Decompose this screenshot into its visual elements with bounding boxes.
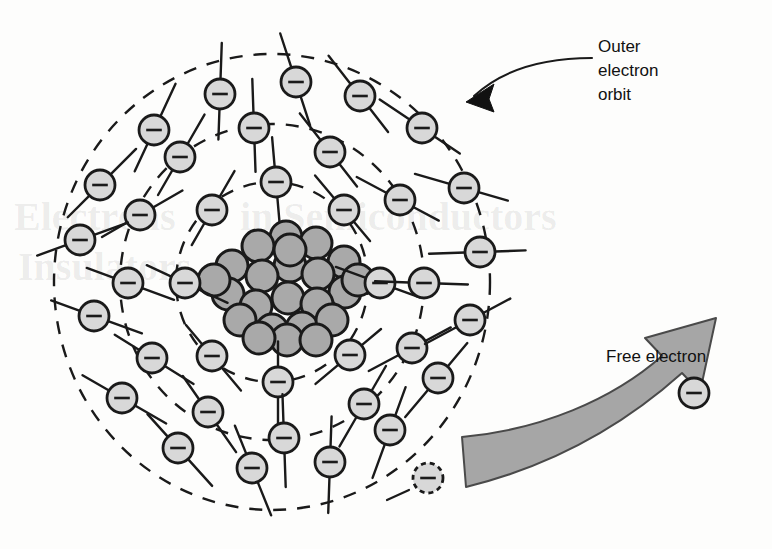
- electron-tail-10: [188, 115, 205, 144]
- electron-tail-b-17: [282, 394, 283, 423]
- electron-12: [300, 113, 357, 186]
- diagram-canvas: Electronsin SemiconductorsInsulators: [0, 0, 772, 549]
- outer-orbit-leader-line: [466, 58, 592, 112]
- arrow-body: [462, 318, 716, 487]
- electron-tail-b-11: [255, 143, 256, 172]
- escaping-electron-tail: [387, 490, 409, 500]
- electron-tail-b-5: [361, 329, 381, 345]
- electron-30: [425, 299, 510, 344]
- electron-tail-27: [380, 99, 410, 119]
- electron-tail-b-19: [115, 335, 140, 350]
- electron-tail-14: [375, 281, 409, 282]
- electron-tail-36: [135, 406, 166, 424]
- electron-tail-22: [111, 149, 136, 174]
- electron-tail-31: [405, 389, 428, 417]
- outer-orbit-label-line-3: orbit: [598, 85, 631, 104]
- electron-17: [269, 394, 299, 487]
- electron-tail-33: [328, 477, 329, 513]
- nucleon-21: [243, 322, 275, 354]
- electron-tail-b-26: [369, 108, 388, 132]
- electron-27: [380, 99, 460, 153]
- electron-tail-5: [316, 365, 339, 384]
- electron-19: [115, 335, 194, 384]
- nucleon-11: [272, 282, 304, 314]
- electron-tail-2: [272, 137, 275, 167]
- electron-11: [239, 79, 269, 172]
- electron-tail-21: [108, 321, 142, 333]
- electron-tail-12: [300, 113, 321, 140]
- electron-tail-7: [222, 367, 241, 390]
- electron-tail-25: [280, 33, 291, 67]
- electron-tail-13: [357, 177, 387, 193]
- electron-tail-29: [429, 253, 465, 254]
- atom-diagram-svg: Electronsin SemiconductorsInsulators: [0, 0, 772, 549]
- electron-26: [329, 56, 388, 132]
- electron-25: [280, 33, 311, 125]
- electron-tail-19: [165, 366, 194, 384]
- electron-tail-b-24: [218, 109, 219, 140]
- outer-orbit-label-line-2: electron: [598, 61, 658, 80]
- outer-orbit-label-line-1: Outer: [598, 37, 641, 56]
- electron-tail-b-14: [439, 284, 468, 285]
- electron-tail-8: [142, 288, 174, 300]
- diagram-labels: Outer electron orbit Free electron: [598, 37, 706, 366]
- nucleon-22: [300, 324, 332, 356]
- electron-tail-b-15: [425, 327, 451, 341]
- electron-tail-30: [425, 327, 457, 344]
- electron-tail-b-23: [135, 144, 148, 172]
- free-electron-arrow: [462, 318, 716, 487]
- electron-tail-23: [160, 84, 175, 117]
- electron-tail-11: [252, 79, 253, 113]
- electron-tail-18: [217, 424, 237, 452]
- electron-tail-b-34: [235, 426, 246, 454]
- leader-arrowhead-icon: [466, 84, 494, 112]
- electron-tail-b-32: [395, 387, 405, 416]
- electron-tail-b-31: [448, 343, 468, 366]
- electron-29: [429, 237, 526, 267]
- electron-tail-28: [415, 174, 450, 184]
- electron-tail-b-33: [331, 416, 332, 447]
- electron-tail-b-12: [339, 164, 357, 187]
- nucleus: [198, 221, 374, 356]
- electron-tail-17: [285, 453, 286, 487]
- electron-tail-b-36: [83, 375, 110, 390]
- ghost-text-2: Insulators: [18, 244, 191, 289]
- free-electron: [679, 378, 709, 408]
- electron-tail-24: [221, 43, 222, 79]
- electron-tail-35: [188, 459, 212, 486]
- electron-1: [192, 171, 235, 245]
- electron-21: [51, 300, 142, 333]
- free-electron-label: Free electron: [606, 347, 706, 366]
- electron-tail-b-27: [434, 136, 459, 153]
- nucleon-6: [246, 260, 278, 292]
- electron-tail-b-29: [495, 250, 526, 251]
- electron-tail-32: [373, 444, 385, 478]
- electron-tail-b-30: [483, 299, 510, 313]
- nucleon-17: [274, 234, 306, 266]
- electron-tail-26: [329, 56, 351, 84]
